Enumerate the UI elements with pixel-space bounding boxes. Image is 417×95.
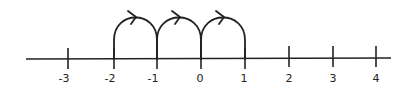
tick-label: 1	[229, 72, 259, 86]
tick-label: -2	[95, 72, 125, 86]
tick-label: 3	[318, 72, 348, 86]
tick-label: 2	[274, 72, 304, 86]
axis-line	[26, 58, 391, 59]
number-line-diagram: -3 -2 -1 0 1 2 3 4	[0, 0, 417, 95]
tick-label: 0	[185, 72, 215, 86]
jump-arc	[114, 18, 157, 60]
jump-arcs	[114, 18, 245, 60]
jump-arc	[157, 18, 201, 60]
tick-label: -1	[138, 72, 168, 86]
tick-label: -3	[49, 72, 79, 86]
jump-arc	[201, 18, 245, 60]
tick-label: 4	[361, 72, 391, 86]
